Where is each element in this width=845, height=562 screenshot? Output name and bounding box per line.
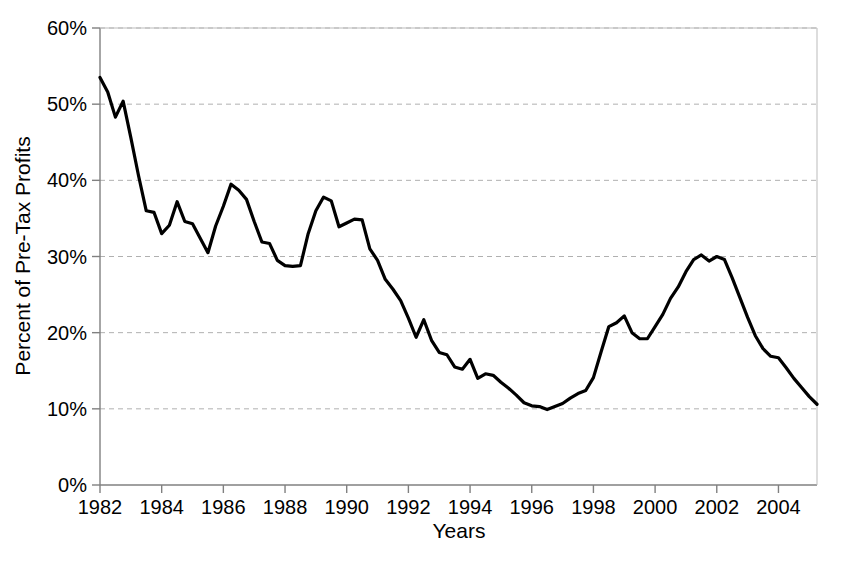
y-tick-label: 30% xyxy=(47,246,87,268)
y-axis-title: Percent of Pre-Tax Profits xyxy=(11,136,34,375)
chart-background xyxy=(0,0,845,562)
y-tick-label: 50% xyxy=(47,93,87,115)
x-tick-label: 2004 xyxy=(756,496,801,518)
x-tick-label: 1988 xyxy=(263,496,308,518)
x-tick-label: 1992 xyxy=(386,496,431,518)
x-tick-label: 1982 xyxy=(78,496,123,518)
x-tick-label: 2002 xyxy=(695,496,740,518)
x-tick-label: 2000 xyxy=(633,496,678,518)
x-tick-label: 1998 xyxy=(571,496,616,518)
y-tick-label: 10% xyxy=(47,398,87,420)
line-chart: 1982198419861988199019921994199619982000… xyxy=(0,0,845,562)
y-tick-label: 0% xyxy=(58,474,87,496)
x-tick-label: 1986 xyxy=(201,496,246,518)
x-axis-title: Years xyxy=(433,519,486,542)
chart-container: 1982198419861988199019921994199619982000… xyxy=(0,0,845,562)
x-tick-label: 1996 xyxy=(509,496,554,518)
x-tick-label: 1990 xyxy=(324,496,369,518)
x-tick-label: 1984 xyxy=(139,496,184,518)
y-tick-label: 40% xyxy=(47,169,87,191)
x-tick-label: 1994 xyxy=(448,496,493,518)
y-tick-label: 60% xyxy=(47,17,87,39)
y-tick-label: 20% xyxy=(47,322,87,344)
